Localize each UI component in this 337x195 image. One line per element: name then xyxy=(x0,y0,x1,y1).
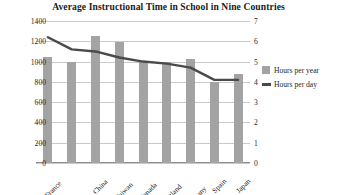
x-tick-label-wrap: France xyxy=(57,165,77,185)
legend-label-hours-per-day: Hours per day xyxy=(274,80,317,89)
y-tick-right: 3 xyxy=(254,98,274,107)
x-tick-label-wrap: Canada xyxy=(152,165,174,187)
plot-area xyxy=(36,21,250,163)
legend-item-hours-per-year: Hours per year xyxy=(262,64,337,76)
legend-item-hours-per-day: Hours per day xyxy=(262,78,337,90)
y-tick-left: 0 xyxy=(6,159,46,168)
chart-title: Average Instructional Time in School in … xyxy=(0,1,337,12)
y-tick-left: 400 xyxy=(6,118,46,127)
x-tick-label-wrap: Japan xyxy=(246,165,264,183)
x-tick-label: China xyxy=(91,177,110,195)
x-tick-label-wrap: England xyxy=(177,165,201,189)
line-swatch-icon xyxy=(262,83,271,86)
y-tick-right: 6 xyxy=(254,37,274,46)
x-tick-label-wrap: Spain xyxy=(222,165,240,183)
y-tick-left: 200 xyxy=(6,138,46,147)
x-tick-label: Canada xyxy=(137,180,159,195)
chart-container: Average Instructional Time in School in … xyxy=(0,0,337,195)
y-tick-left: 1000 xyxy=(6,57,46,66)
x-tick-label-wrap: China xyxy=(104,165,123,184)
hours-per-day-line xyxy=(48,37,238,80)
x-tick-label: France xyxy=(43,179,63,195)
x-tick-label: Japan xyxy=(234,177,252,195)
bar-swatch-icon xyxy=(262,66,270,74)
x-tick-label-wrap: Taiwan xyxy=(128,165,149,186)
y-tick-right: 2 xyxy=(254,118,274,127)
y-tick-left: 600 xyxy=(6,98,46,107)
y-tick-left: 800 xyxy=(6,77,46,86)
y-tick-left: 1400 xyxy=(6,17,46,26)
chart-legend: Hours per year Hours per day xyxy=(262,64,337,92)
y-tick-right: 7 xyxy=(254,17,274,26)
y-tick-right: 1 xyxy=(254,138,274,147)
y-tick-left: 1200 xyxy=(6,37,46,46)
x-tick-label: Taiwan xyxy=(113,180,134,195)
x-tick-label: England xyxy=(160,182,184,195)
legend-label-hours-per-year: Hours per year xyxy=(274,66,319,75)
line-series xyxy=(36,21,250,163)
x-tick-label: United States xyxy=(58,193,92,195)
